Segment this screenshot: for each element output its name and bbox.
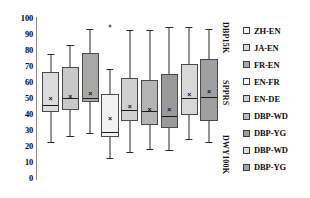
median-line xyxy=(83,98,98,99)
box-plot-zh-en-0[interactable]: × xyxy=(42,0,59,198)
mean-marker-x: × xyxy=(128,102,132,109)
legend-item[interactable]: JA-EN xyxy=(243,39,310,56)
mean-marker-x: × xyxy=(88,89,92,96)
box-plot-dbp-wd-7[interactable]: × xyxy=(181,0,198,198)
mean-marker-x: × xyxy=(49,94,53,101)
box-iqr xyxy=(121,78,138,121)
legend-item-label: DBP-YG xyxy=(254,162,286,172)
legend-item[interactable]: DBP-WD xyxy=(243,142,310,159)
whisker-cap-lower xyxy=(205,142,212,143)
legend-item[interactable]: EN-DE xyxy=(243,90,310,107)
y-tick-label: 0 xyxy=(7,174,33,182)
whisker-cap-upper xyxy=(106,69,113,70)
legend-swatch-icon xyxy=(243,95,250,102)
legend-swatch-icon xyxy=(243,27,250,34)
box-plot-en-fr-3[interactable]: × xyxy=(101,0,118,198)
group-label-spprs: SPPRS xyxy=(221,80,230,105)
y-tick-label: 50 xyxy=(7,94,33,102)
group-label-dbp15k: DBP15K xyxy=(221,22,230,53)
legend-swatch-icon xyxy=(243,147,250,154)
legend-swatch-icon xyxy=(243,44,250,51)
mean-marker-x: × xyxy=(187,91,191,98)
legend-item-label: DBP-YG xyxy=(254,128,286,138)
median-line xyxy=(43,105,58,106)
whisker-cap-lower xyxy=(106,158,113,159)
y-tick-label: 30 xyxy=(7,126,33,134)
whisker-cap-lower xyxy=(166,150,173,151)
whisker-cap-upper xyxy=(47,54,54,55)
mean-marker-x: × xyxy=(148,105,152,112)
legend-item[interactable]: ZH-EN xyxy=(243,22,310,39)
legend-swatch-icon xyxy=(243,164,250,171)
mean-marker-x: × xyxy=(68,92,72,99)
legend-item[interactable]: DBP-WD xyxy=(243,107,310,124)
whisker-cap-upper xyxy=(67,45,74,46)
legend-item-label: DBP-WD xyxy=(254,111,288,121)
mean-marker-x: × xyxy=(167,105,171,112)
whisker-cap-lower xyxy=(67,136,74,137)
y-tick-label: 70 xyxy=(7,62,33,70)
whisker-cap-lower xyxy=(126,152,133,153)
legend-swatch-icon xyxy=(243,130,250,137)
y-tick-label: 60 xyxy=(7,78,33,86)
median-line xyxy=(102,132,117,133)
whisker-cap-lower xyxy=(146,149,153,150)
box-plot-en-de-4[interactable]: × xyxy=(121,0,138,198)
box-iqr xyxy=(141,80,158,125)
legend-item-label: JA-EN xyxy=(254,43,279,53)
mean-marker-x: × xyxy=(207,88,211,95)
y-tick-label: 20 xyxy=(7,142,33,150)
legend-item[interactable]: DBP-YG xyxy=(243,159,310,176)
box-plot-dbp-yg-6[interactable]: × xyxy=(161,0,178,198)
median-line xyxy=(162,116,177,117)
whisker-cap-upper xyxy=(126,30,133,31)
legend-item[interactable]: FR-EN xyxy=(243,56,310,73)
y-tick-label: 10 xyxy=(7,158,33,166)
whisker-cap-upper xyxy=(146,30,153,31)
box-plot-dbp-yg-8[interactable]: × xyxy=(200,0,217,198)
plot-area: 1009080706050403020100 ××××××××× DBP15KS… xyxy=(0,0,225,198)
whisker-cap-lower xyxy=(87,133,94,134)
legend-swatch-icon xyxy=(243,61,250,68)
box-plot-dbp-wd-5[interactable]: × xyxy=(141,0,158,198)
legend-item-label: FR-EN xyxy=(254,60,279,70)
legend: ZH-ENJA-ENFR-ENEN-FREN-DEDBP-WDDBP-YGDBP… xyxy=(243,22,310,176)
box-iqr xyxy=(181,64,198,115)
mean-marker-x: × xyxy=(108,115,112,122)
box-iqr xyxy=(62,67,79,110)
legend-item-label: DBP-WD xyxy=(254,145,288,155)
legend-item-label: EN-FR xyxy=(254,77,279,87)
whisker-cap-upper xyxy=(166,27,173,28)
y-tick-label: 80 xyxy=(7,46,33,54)
outlier-point xyxy=(108,24,111,27)
y-tick-label: 100 xyxy=(7,14,33,22)
legend-item[interactable]: DBP-YG xyxy=(243,125,310,142)
boxplot-figure: 1009080706050403020100 ××××××××× DBP15KS… xyxy=(0,0,310,198)
group-label-dwy100k: DWY100K xyxy=(221,135,230,174)
y-tick-label: 90 xyxy=(7,30,33,38)
box-plot-fr-en-2[interactable]: × xyxy=(82,0,99,198)
legend-swatch-icon xyxy=(243,113,250,120)
legend-swatch-icon xyxy=(243,78,250,85)
legend-item-label: EN-DE xyxy=(254,94,280,104)
whisker-cap-lower xyxy=(47,142,54,143)
box-plot-ja-en-1[interactable]: × xyxy=(62,0,79,198)
box-iqr xyxy=(161,74,178,128)
whisker-cap-upper xyxy=(205,29,212,30)
whisker-cap-upper xyxy=(87,29,94,30)
legend-item-label: ZH-EN xyxy=(254,26,280,36)
median-line xyxy=(182,98,197,99)
y-tick-label: 40 xyxy=(7,110,33,118)
median-line xyxy=(201,97,216,98)
box-iqr xyxy=(42,72,59,112)
median-line xyxy=(122,110,137,111)
whisker-cap-lower xyxy=(186,139,193,140)
y-axis-line xyxy=(36,17,37,180)
whisker-cap-upper xyxy=(186,27,193,28)
legend-item[interactable]: EN-FR xyxy=(243,73,310,90)
